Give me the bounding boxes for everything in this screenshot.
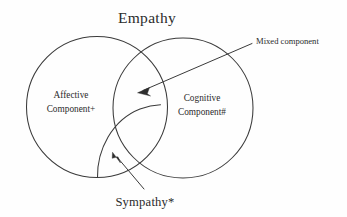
sympathy-arrowhead [112,152,120,163]
sympathy-arc [97,105,160,178]
mixed-component-label: Mixed component [256,36,319,46]
affective-label-line2: Component+ [47,104,96,114]
sympathy-label: Sympathy* [115,195,174,209]
mixed-component-leader-line [143,44,252,91]
affective-label-line1: Affective [54,90,89,100]
venn-diagram-canvas: Empathy Affective Component+ Cognitive C… [0,0,347,217]
mixed-component-arrowhead [138,88,151,97]
cognitive-label-line1: Cognitive [184,93,221,103]
cognitive-label-line2: Component# [178,107,226,117]
venn-diagram-figure: Empathy Affective Component+ Cognitive C… [0,0,347,217]
figure-title: Empathy [118,9,176,26]
